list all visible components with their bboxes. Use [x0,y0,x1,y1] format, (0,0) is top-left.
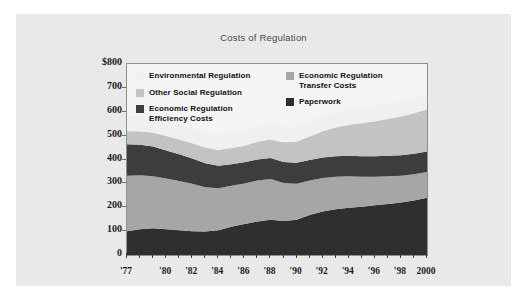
x-tick-label: '98 [394,266,406,276]
x-tick-mark [426,253,427,258]
x-tick-label: '96 [368,266,380,276]
y-tick-label: 600 [62,104,122,115]
x-tick-label: '84 [211,266,223,276]
x-tick-label: 2000 [417,266,436,276]
x-tick-mark [243,253,244,258]
legend-item-label: Economic RegulationTransfer Costs [299,71,383,90]
legend-swatch-icon [286,72,294,80]
figure-panel: Costs of Regulation 01002003004005006007… [16,14,511,286]
legend-item[interactable]: Economic RegulationEfficiency Costs [136,104,286,123]
y-tick-label: 400 [62,152,122,163]
legend-swatch-icon [286,98,294,106]
y-tick-label: 100 [62,223,122,234]
x-tick-mark [217,253,218,258]
x-tick-mark [309,253,310,258]
x-tick-mark [361,253,362,258]
x-tick-mark [387,253,388,258]
x-tick-label: '92 [316,266,328,276]
y-tick-label: 300 [62,175,122,186]
y-axis: 0100200300400500600700$800 [60,54,122,265]
legend-item-label: Paperwork [299,97,341,107]
legend-item[interactable]: Other Social Regulation [136,88,286,98]
legend-swatch-icon [136,105,144,113]
x-tick-mark [126,253,127,258]
legend-swatch-icon [136,89,144,97]
legend-item-label: Environmental Regulation [149,71,251,81]
x-tick-mark [413,253,414,258]
y-tick-label: 500 [62,128,122,139]
legend-column-right: Economic RegulationTransfer CostsPaperwo… [286,71,426,114]
x-tick-label: '88 [263,266,275,276]
legend-item[interactable]: Paperwork [286,97,426,107]
x-tick-mark [152,253,153,258]
legend-column-left: Environmental RegulationOther Social Reg… [136,71,286,130]
y-tick-label: $800 [62,56,122,67]
x-tick-label: '82 [185,266,197,276]
y-tick-label: 200 [62,199,122,210]
chart-title: Costs of Regulation [16,32,511,43]
x-tick-mark [139,253,140,258]
x-tick-label: '94 [342,266,354,276]
x-tick-mark [165,253,166,258]
x-tick-mark [283,253,284,258]
x-tick-mark [269,253,270,258]
y-tick-label: 0 [62,247,122,258]
x-tick-label: '90 [289,266,301,276]
x-tick-mark [178,253,179,258]
legend-swatch-icon [136,72,144,80]
x-tick-mark [400,253,401,258]
x-tick-label: '80 [159,266,171,276]
legend-item-label: Economic RegulationEfficiency Costs [149,104,233,123]
x-tick-mark [256,253,257,258]
x-tick-mark [335,253,336,258]
x-tick-mark [348,253,349,258]
legend-item[interactable]: Economic RegulationTransfer Costs [286,71,426,90]
x-tick-mark [374,253,375,258]
x-axis: '77'80'82'84'86'88'90'92'94'96'982000 [126,258,428,280]
x-tick-label: '77 [120,266,132,276]
x-tick-mark [322,253,323,258]
x-tick-mark [191,253,192,258]
x-tick-mark [230,253,231,258]
legend-item[interactable]: Environmental Regulation [136,71,286,81]
x-tick-mark [296,253,297,258]
plot-area-wrapper: 0100200300400500600700$800 '77'80'82'84'… [126,63,428,256]
x-tick-mark [204,253,205,258]
y-tick-label: 700 [62,80,122,91]
x-tick-label: '86 [237,266,249,276]
legend-item-label: Other Social Regulation [149,88,242,98]
